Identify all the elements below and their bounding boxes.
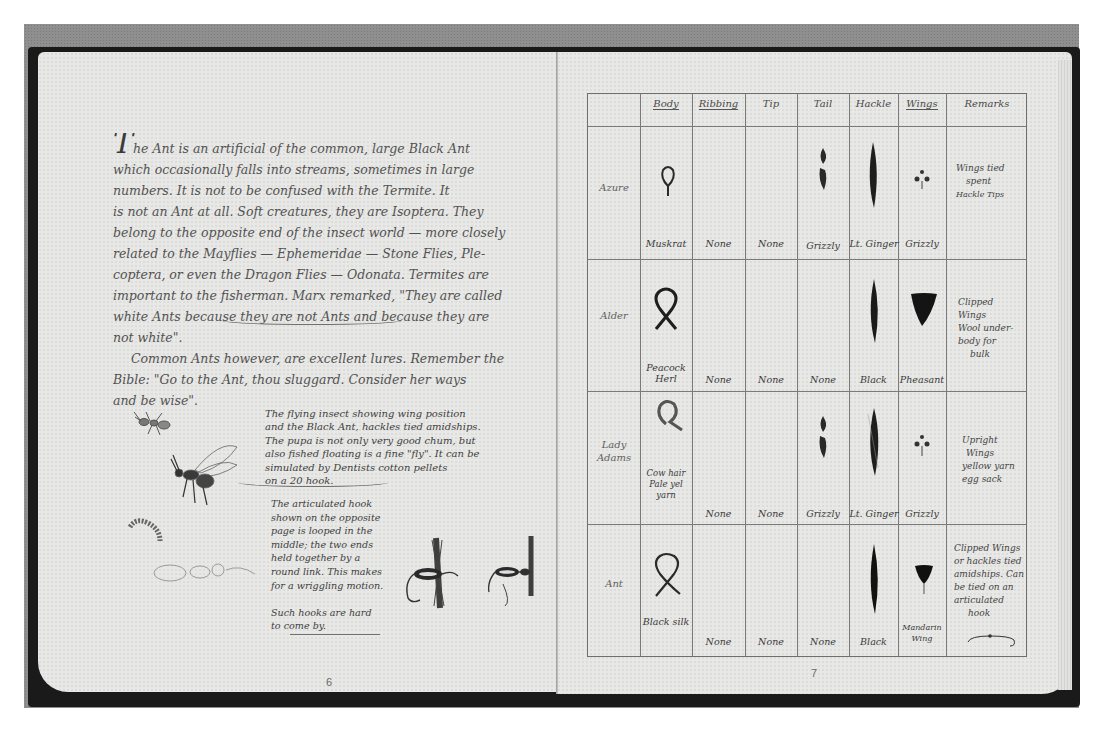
cell-tip: None — [745, 374, 797, 385]
column-header-tip: Tip — [745, 98, 797, 109]
cell-remarks: Upright Wings yellow yarn egg sack — [962, 434, 1028, 486]
ant-sketch-icon — [132, 408, 177, 438]
cell-wings: Grizzly — [898, 238, 946, 249]
cell-remarks: Wings tied spent Hackle Tips — [956, 162, 1028, 201]
essay-line: which occasionally falls into streams, s… — [113, 159, 548, 180]
wings-mandarin-icon — [914, 564, 934, 596]
hackle-feather-icon — [867, 544, 881, 616]
tail-feather-icon — [816, 414, 830, 464]
row-label-ant: Ant — [589, 578, 639, 589]
essay-line: The Ant is an artificial of the common, … — [113, 133, 548, 159]
flourish-underline — [290, 626, 380, 635]
notes-block-hook: The articulated hook shown on the opposi… — [271, 497, 406, 633]
row-label-azure: Azure — [589, 182, 639, 193]
flourish-underline — [222, 316, 402, 325]
essay-line: Bible: "Go to the Ant, thou sluggard. Co… — [113, 369, 548, 390]
body-loop-icon — [652, 287, 680, 331]
cell-wings: Grizzly — [895, 508, 949, 519]
cell-tip: None — [745, 508, 797, 519]
page-number-right: 7 — [811, 667, 817, 679]
cell-wings: Pheasant — [895, 374, 949, 385]
hackle-feather-icon — [866, 142, 880, 210]
cell-body: Peacock Herl — [640, 362, 692, 384]
row-divider — [588, 524, 1026, 525]
articulated-hook-icon — [966, 632, 1018, 648]
cell-hackle: Black — [849, 374, 898, 385]
cell-tip: None — [745, 636, 797, 647]
essay-line: coptera, or even the Dragon Flies — Odon… — [113, 264, 548, 285]
notes-block: The flying insect showing wing position … — [265, 407, 505, 487]
book-spine — [556, 52, 558, 694]
row-label-alder: Alder — [589, 310, 639, 321]
essay-line: not white". — [113, 327, 548, 348]
cell-tip: None — [745, 238, 797, 249]
cell-ribbing: None — [692, 508, 745, 519]
cell-remarks: Clipped Wings Wool under- body for bulk — [958, 296, 1028, 361]
page-edges — [1058, 60, 1072, 690]
hackle-feather-icon — [866, 408, 882, 478]
winged-ant-sketch-icon — [165, 435, 245, 515]
essay-line: related to the Mayflies — Ephemeridae — … — [113, 243, 548, 264]
pupa-sketch-icon — [150, 560, 260, 585]
cell-ribbing: None — [692, 636, 745, 647]
essay-line: numbers. It is not to be confused with t… — [113, 180, 548, 201]
articulated-fly-icon — [400, 538, 470, 608]
essay-line: is not an Ant at all. Soft creatures, th… — [113, 201, 548, 222]
cell-hackle: Lt. Ginger — [846, 238, 902, 249]
column-header-hackle: Hackle — [849, 98, 898, 109]
column-header-tail: Tail — [797, 98, 849, 109]
articulated-fly-icon — [485, 536, 545, 606]
body-loop-icon — [658, 164, 678, 198]
essay-line: important to the fisherman. Marx remarke… — [113, 285, 548, 306]
essay-text: The Ant is an artificial of the common, … — [113, 133, 548, 411]
essay-line: belong to the opposite end of the insect… — [113, 222, 548, 243]
row-divider — [588, 391, 1026, 392]
header-divider — [588, 126, 1026, 127]
row-label-lady-adams: Lady Adams — [589, 438, 639, 464]
figure-caption-cropped — [110, 737, 930, 749]
body-loop-icon — [656, 398, 684, 434]
column-header-body: Body — [640, 98, 692, 109]
fly-pattern-table: Body Ribbing Tip Tail Hackle Wings Remar… — [587, 93, 1027, 657]
cell-tail: Grizzly — [797, 508, 849, 519]
page-number-left: 6 — [326, 676, 332, 688]
column-header-remarks: Remarks — [946, 98, 1028, 109]
cell-tail: None — [797, 636, 849, 647]
larva-sketch-icon — [126, 515, 166, 545]
cell-tail: Grizzly — [797, 240, 849, 251]
wings-hackle-tips-icon — [913, 434, 931, 458]
hackle-feather-icon — [867, 279, 881, 345]
cell-ribbing: None — [692, 238, 745, 249]
cell-body: Black silk — [640, 616, 692, 627]
body-loop-icon — [652, 552, 684, 598]
cell-hackle: Lt. Ginger — [846, 508, 902, 519]
cell-remarks: Clipped Wings or hackles tied amidships.… — [954, 542, 1028, 620]
cell-wings: Mandarin Wing — [895, 622, 949, 644]
cell-body: Cow hair Pale yel yarn — [640, 468, 692, 501]
essay-line: Common Ants however, are excellent lures… — [113, 348, 548, 369]
wings-pheasant-icon — [910, 292, 938, 328]
cell-tail: None — [797, 374, 849, 385]
wings-hackle-tips-icon — [913, 169, 931, 191]
cell-body: Muskrat — [640, 238, 692, 249]
column-header-wings: Wings — [898, 98, 946, 109]
tail-feather-icon — [816, 146, 830, 196]
drop-cap: T — [113, 133, 133, 159]
row-divider — [588, 259, 1026, 260]
cell-ribbing: None — [692, 374, 745, 385]
cell-hackle: Black — [849, 636, 898, 647]
column-header-ribbing: Ribbing — [692, 98, 745, 109]
